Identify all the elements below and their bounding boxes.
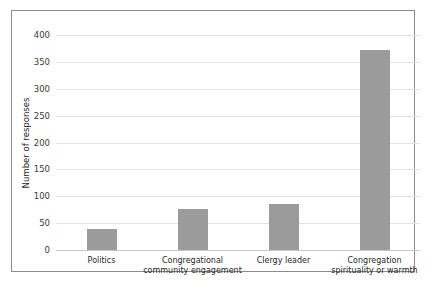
bar[interactable] [87,229,117,250]
y-tick-label: 400 [34,31,50,40]
y-tick-label: 0 [45,246,50,255]
x-tick-label-line: Politics [88,256,116,266]
x-tick-label-line: community engagement [143,266,242,276]
y-tick-label: 150 [34,165,50,174]
bar-group: Congregationspirituality or warmth [329,35,420,250]
y-tick-label: 350 [34,58,50,67]
y-tick-label: 100 [34,192,50,201]
y-tick-label: 200 [34,138,50,147]
plot-area: 050100150200250300350400 PoliticsCongreg… [56,35,420,250]
x-tick-label-line: Congregation [331,256,417,266]
x-tick-label-line: Congregational [143,256,242,266]
bar[interactable] [178,209,208,250]
x-tick-label: Congregationspirituality or warmth [331,256,417,276]
y-tick-label: 50 [39,219,50,228]
chart-figure: Number of responses 05010015020025030035… [0,0,435,290]
x-tick-label: Congregationalcommunity engagement [143,256,242,276]
y-tick-label: 300 [34,85,50,94]
x-tick-label-line: spirituality or warmth [331,266,417,276]
x-tick-label-line: Clergy leader [257,256,311,266]
bar-group: Congregationalcommunity engagement [147,35,238,250]
bar-series: PoliticsCongregationalcommunity engageme… [56,35,420,250]
x-axis-baseline: 0 [56,250,420,251]
x-tick-label: Politics [88,256,116,266]
y-tick-label: 250 [34,111,50,120]
bar-group: Clergy leader [238,35,329,250]
bar[interactable] [360,50,390,250]
bar[interactable] [269,204,299,250]
bar-group: Politics [56,35,147,250]
figure-frame: Number of responses 05010015020025030035… [11,10,415,272]
y-axis-label: Number of responses [22,98,31,189]
x-tick-label: Clergy leader [257,256,311,266]
